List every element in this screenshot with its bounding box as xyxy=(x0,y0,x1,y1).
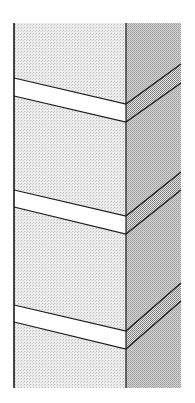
column-diagram xyxy=(0,0,195,403)
